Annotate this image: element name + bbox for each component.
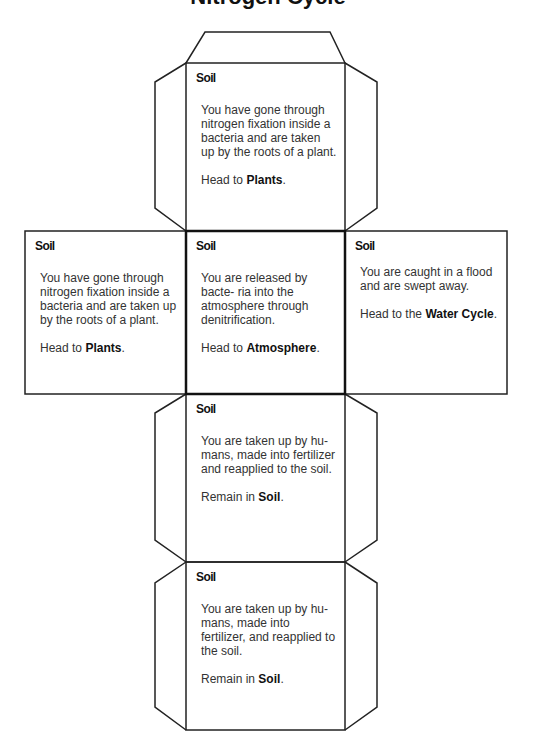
face-top: Soil You have gone through nitrogen fixa…: [186, 63, 345, 231]
destination: Atmosphere: [246, 341, 316, 355]
face-action: Remain in Soil.: [201, 672, 337, 686]
face-text: You have gone through nitrogen fixation …: [40, 271, 178, 327]
face-heading: Soil: [196, 239, 216, 253]
face-heading: Soil: [355, 239, 375, 253]
destination: Plants: [85, 341, 121, 355]
face-heading: Soil: [196, 71, 216, 85]
face-action: Head to Atmosphere.: [201, 341, 337, 355]
face-right: Soil You are caught in a flood and are s…: [345, 231, 507, 394]
face-action: Head to Plants.: [201, 173, 337, 187]
destination: Soil: [258, 672, 280, 686]
face-text: You are taken up by hu- mans, made into …: [201, 602, 337, 658]
face-heading: Soil: [196, 570, 216, 584]
destination: Soil: [258, 490, 280, 504]
destination: Plants: [246, 173, 282, 187]
face-heading: Soil: [196, 402, 216, 416]
face-lower: Soil You are taken up by hu- mans, made …: [186, 394, 345, 562]
face-text: You have gone through nitrogen fixation …: [201, 103, 337, 159]
face-text: You are taken up by hu- mans, made into …: [201, 434, 337, 476]
face-heading: Soil: [35, 239, 55, 253]
face-text: You are released by bacte- ria into the …: [201, 271, 337, 327]
face-center: Soil You are released by bacte- ria into…: [186, 231, 345, 394]
face-action: Head to Plants.: [40, 341, 178, 355]
face-left: Soil You have gone through nitrogen fixa…: [25, 231, 186, 394]
face-action: Remain in Soil.: [201, 490, 337, 504]
face-action: Head to the Water Cycle.: [360, 307, 499, 321]
face-text: You are caught in a flood and are swept …: [360, 265, 499, 293]
destination: Water Cycle: [425, 307, 493, 321]
face-bottom: Soil You are taken up by hu- mans, made …: [186, 562, 345, 730]
